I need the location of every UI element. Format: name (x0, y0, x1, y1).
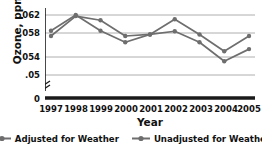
series-adjusted (49, 13, 251, 64)
data-series-layer (49, 13, 251, 64)
y-axis-tick-labels: .062 .058 .054 .05 0 (16, 0, 40, 148)
data-point (173, 29, 177, 33)
x-tick-label-1999: 1999 (89, 104, 113, 114)
data-point (98, 18, 102, 22)
chart-legend: Adjusted for Weather Unadjusted for Weat… (0, 131, 262, 146)
data-point (123, 40, 127, 44)
x-tick-label-2003: 2003 (189, 104, 213, 114)
x-tick-label-1997: 1997 (39, 104, 63, 114)
legend-label-adjusted: Adjusted for Weather (15, 134, 119, 144)
y-tick-label-05: .05 (16, 70, 40, 80)
legend-label-unadjusted: Unadjusted for Weather (154, 134, 262, 144)
x-axis-title: Year (45, 116, 255, 128)
legend-item-adjusted[interactable]: Adjusted for Weather (0, 134, 119, 144)
data-point (197, 32, 201, 36)
gridlines (45, 15, 255, 75)
data-point (197, 40, 201, 44)
legend-item-unadjusted[interactable]: Unadjusted for Weather (131, 134, 262, 144)
data-point (49, 34, 53, 38)
x-axis-tick-labels: 1997 1998 1999 2000 2001 2002 2003 2004 … (45, 104, 255, 116)
x-tick-label-1998: 1998 (64, 104, 88, 114)
data-point (247, 47, 251, 51)
x-tick-label-2001: 2001 (139, 104, 163, 114)
plot-area (45, 8, 255, 100)
data-point (247, 34, 251, 38)
data-point (49, 29, 53, 33)
x-tick-label-2002: 2002 (164, 104, 188, 114)
y-tick-label-054: .054 (16, 52, 40, 62)
data-point (74, 14, 78, 18)
legend-line-marker-icon (0, 134, 12, 143)
x-tick-label-2000: 2000 (114, 104, 138, 114)
series-line (51, 15, 249, 61)
data-point (123, 34, 127, 38)
y-tick-label-058: .058 (16, 28, 40, 38)
plot-svg (45, 8, 255, 100)
y-tick-label-zero: 0 (16, 94, 40, 104)
series-unadjusted (49, 14, 251, 54)
x-tick-label-2004: 2004 (214, 104, 238, 114)
y-tick-label-062: .062 (16, 10, 40, 20)
data-point (222, 49, 226, 53)
data-point (222, 59, 226, 63)
data-point (173, 17, 177, 21)
x-tick-label-2005: 2005 (237, 104, 261, 114)
legend-line-marker-icon (131, 134, 151, 143)
data-point (98, 29, 102, 33)
data-point (148, 32, 152, 36)
ozone-trend-chart: Ozone, ppm .062 .058 .054 .05 0 (0, 0, 262, 148)
